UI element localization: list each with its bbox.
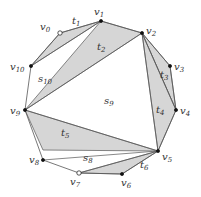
triangle-label-t6: t6: [140, 159, 149, 172]
vertex-label-v3: v3: [174, 61, 185, 74]
region-label-s9: s9: [104, 95, 114, 108]
vertex-v4-marker: [174, 108, 177, 111]
vertex-v2-marker: [140, 31, 143, 34]
vertex-v8-marker: [41, 158, 44, 161]
vertex-label-v6: v6: [121, 177, 132, 190]
region-label-s8: s8: [83, 152, 93, 165]
vertex-label-v0: v0: [40, 21, 51, 34]
polygon-diagram: v0v1v2v3v4v5v6v7v8v9v10t1t2t3t4t5t6s10s9…: [0, 0, 201, 197]
vertex-label-v10: v10: [10, 61, 25, 74]
vertex-label-v4: v4: [180, 105, 190, 118]
vertex-label-v8: v8: [29, 154, 40, 167]
vertex-v6-marker: [120, 172, 123, 175]
vertex-v7-open-marker: [77, 171, 81, 175]
vertex-v5-marker: [156, 149, 159, 152]
vertex-v0-open-marker: [58, 31, 62, 35]
region-label-s10: s10: [38, 73, 53, 86]
vertex-label-v9: v9: [10, 105, 21, 118]
triangle-t2: [25, 21, 142, 110]
vertex-label-v7: v7: [70, 176, 81, 189]
vertex-v10-marker: [29, 64, 32, 67]
vertex-label-v5: v5: [162, 151, 173, 164]
vertex-v1-marker: [99, 19, 102, 22]
vertex-label-v1: v1: [94, 6, 104, 19]
vertex-label-v2: v2: [146, 25, 157, 38]
vertex-v9-marker: [23, 108, 26, 111]
triangle-label-t1: t1: [72, 15, 81, 28]
vertex-v3-marker: [168, 64, 171, 67]
